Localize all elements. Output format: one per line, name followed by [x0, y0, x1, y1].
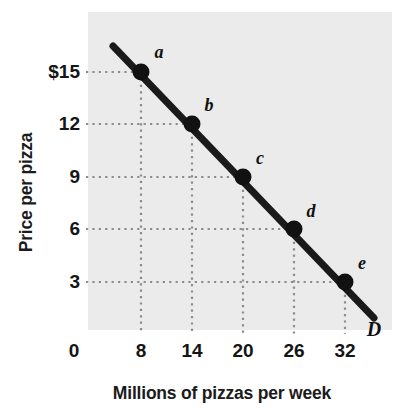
point-label-e: e	[358, 253, 366, 274]
x-tick-label-20: 20	[218, 340, 268, 362]
curve-label-d: D	[367, 318, 381, 341]
x-axis-title: Millions of pizzas per week	[52, 383, 392, 404]
x-tick-label-32: 32	[320, 340, 370, 362]
point-label-d: d	[307, 201, 316, 222]
y-axis-title: Price per pizza	[16, 83, 37, 303]
x-tick-label-14: 14	[167, 340, 217, 362]
point-label-a: a	[155, 42, 164, 63]
point-label-c: c	[256, 148, 264, 169]
y-tick-label-15: $15	[16, 61, 80, 83]
x-tick-label-0: 0	[49, 340, 99, 362]
plot-area-background	[88, 12, 392, 330]
x-tick-label-8: 8	[116, 340, 166, 362]
x-tick-label-26: 26	[269, 340, 319, 362]
point-label-b: b	[205, 95, 214, 116]
demand-curve-figure: $15 12 9 6 3 0 8 14 20 26 32 a b c d e D…	[0, 0, 396, 418]
